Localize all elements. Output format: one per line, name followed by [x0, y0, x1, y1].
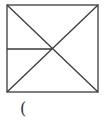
answer-parenthesis: ( — [20, 100, 26, 118]
geometry-figure — [0, 0, 110, 100]
